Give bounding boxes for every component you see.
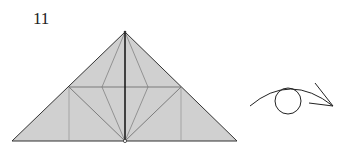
triangle-model (12, 31, 237, 143)
origami-diagram (0, 0, 345, 157)
turn-over-eye-icon (250, 83, 333, 114)
